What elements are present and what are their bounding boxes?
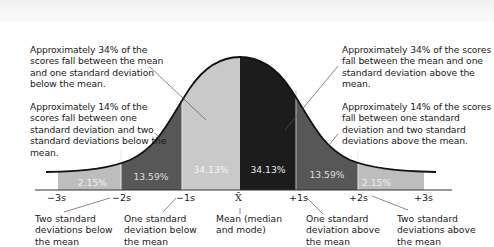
pct-left-center: 34.13% (193, 164, 228, 175)
caption-minus-1s: One standard deviation below the mean (124, 213, 204, 247)
tick-minus-1s: −1s (176, 192, 195, 203)
tick-minus-3s: −3s (47, 192, 66, 203)
tick-minus-2s: −2s (112, 192, 131, 203)
pct-left-mid: 13.59% (133, 171, 168, 182)
tick-plus-3s: +3s (414, 192, 433, 203)
annotation-left-14: Approximately 14% of the scores fall bet… (30, 101, 170, 158)
annotation-right-14: Approximately 14% of the scores fall bet… (342, 101, 492, 147)
annotation-right-34: Approximately 34% of the scores fall bet… (342, 44, 492, 90)
tick-plus-2s: +2s (349, 192, 368, 203)
pct-right-tail: 2.15% (362, 177, 391, 188)
pct-right-center: 34.13% (250, 164, 285, 175)
tick-mean: X̄ (235, 192, 242, 203)
pct-right-mid: 13.59% (309, 169, 344, 180)
caption-mean: Mean (median and mode) (216, 213, 296, 236)
caption-plus-1s: One standard deviation above the mean (306, 213, 386, 247)
annotation-left-34: Approximately 34% of the scores fall bet… (30, 44, 178, 90)
tick-plus-1s: +1s (289, 192, 308, 203)
caption-plus-2s: Two standard deviations above the mean (397, 213, 487, 247)
caption-minus-2s: Two standard deviations below the mean (35, 213, 115, 247)
pct-left-tail: 2.15% (78, 177, 107, 188)
